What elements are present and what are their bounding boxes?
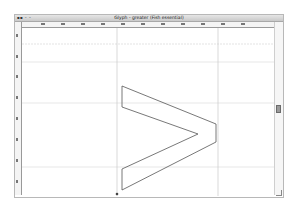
ruler-tick: [41, 23, 45, 25]
ruler-tick: [181, 23, 185, 25]
ruler-tick: [16, 55, 18, 58]
ruler-tick: [161, 23, 165, 25]
scrollbar-thumb[interactable]: [276, 105, 281, 113]
ruler-tick: [16, 75, 18, 78]
ruler-tick: [121, 23, 125, 25]
glyph-outline-view: [22, 28, 276, 196]
glyph-contour-greater[interactable]: [122, 86, 216, 190]
ruler-tick: [16, 180, 18, 183]
ruler-tick: [16, 96, 18, 99]
vertical-scrollbar[interactable]: [274, 22, 283, 195]
ruler-tick: [16, 159, 18, 162]
ruler-tick: [101, 23, 105, 25]
resize-grip-icon[interactable]: [276, 190, 282, 196]
title-bar[interactable]: ▪▪ ◦ ◦ Glyph - greater (Fish essential): [15, 15, 283, 22]
window-title: Glyph - greater (Fish essential): [15, 15, 283, 21]
ruler-tick: [201, 23, 205, 25]
ruler-tick: [16, 117, 18, 120]
ruler-tick: [241, 23, 245, 25]
glyph-editor-window: ▪▪ ◦ ◦ Glyph - greater (Fish essential): [14, 14, 284, 198]
ruler-tick: [16, 34, 18, 37]
ruler-tick: [221, 23, 225, 25]
ruler-tick: [16, 138, 18, 141]
glyph-canvas[interactable]: [22, 28, 274, 194]
ruler-tick: [81, 23, 85, 25]
ruler-tick: [141, 23, 145, 25]
ruler-tick: [61, 23, 65, 25]
vertical-ruler[interactable]: [15, 22, 22, 195]
origin-point-icon[interactable]: [116, 193, 119, 196]
